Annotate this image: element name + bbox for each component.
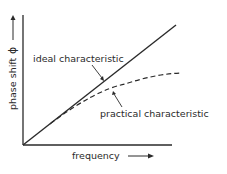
y-axis-label: phase shift: [7, 58, 18, 110]
phase-characteristic-diagram: phase shift ϕ frequency ideal characteri…: [0, 0, 227, 174]
y-axis-arrow-icon: [11, 15, 16, 20]
ideal-pointer-line: [92, 65, 102, 78]
practical-pointer-line: [114, 94, 122, 107]
x-axis-label: frequency: [72, 150, 120, 161]
y-axis-label-group: phase shift ϕ: [6, 15, 19, 110]
practical-characteristic-label: practical characteristic: [100, 108, 209, 119]
ideal-characteristic-label: ideal characteristic: [33, 53, 124, 64]
x-axis-arrow-icon: [148, 154, 154, 159]
practical-pointer-arrow-icon: [112, 91, 116, 95]
phi-symbol: ϕ: [6, 47, 19, 54]
ideal-characteristic-line: [23, 25, 176, 145]
